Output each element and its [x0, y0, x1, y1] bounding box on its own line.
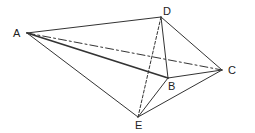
edge-a-d [27, 17, 161, 33]
edge-a-b [27, 33, 168, 78]
edge-a-e [27, 33, 138, 117]
edge-d-b [161, 17, 168, 78]
label-b: B [168, 80, 175, 92]
vertex-labels: A B C D E [13, 5, 236, 131]
geometry-diagram: A B C D E [0, 0, 255, 133]
label-d: D [163, 5, 171, 17]
label-c: C [228, 64, 236, 76]
edge-e-c [138, 70, 222, 117]
label-e: E [135, 119, 142, 131]
edge-d-c [161, 17, 222, 70]
label-a: A [13, 27, 21, 39]
edges [27, 17, 222, 117]
